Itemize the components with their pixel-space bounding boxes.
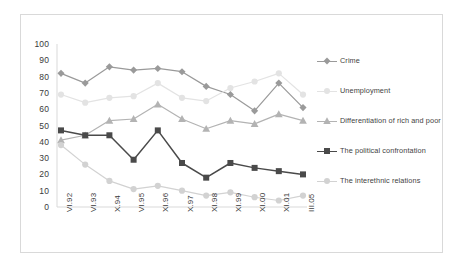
data-point-marker bbox=[227, 160, 233, 166]
legend-marker-icon bbox=[317, 56, 337, 66]
data-point-marker bbox=[203, 98, 209, 104]
chart-frame: 1009080706050403020100 VI.92VI.93X.94VI.… bbox=[20, 14, 443, 253]
data-point-marker bbox=[276, 70, 282, 76]
data-point-marker bbox=[324, 148, 330, 154]
data-point-marker bbox=[131, 157, 137, 163]
data-point-marker bbox=[276, 197, 282, 203]
data-point-marker bbox=[227, 91, 234, 98]
data-point-marker bbox=[178, 115, 186, 122]
legend-item-label: Differentiation of rich and poor bbox=[340, 117, 441, 125]
data-point-marker bbox=[203, 175, 209, 181]
y-axis-tick-label: 90 bbox=[23, 56, 49, 65]
data-point-marker bbox=[203, 83, 210, 90]
data-point-marker bbox=[106, 132, 112, 138]
data-point-marker bbox=[82, 100, 88, 106]
data-point-marker bbox=[179, 160, 185, 166]
x-axis-tick-label: XI.96 bbox=[161, 193, 170, 212]
y-axis-tick-label: 60 bbox=[23, 105, 49, 114]
data-point-marker bbox=[106, 178, 112, 184]
legend-item-label: The interethnic relations bbox=[340, 177, 420, 185]
data-point-marker bbox=[82, 162, 88, 168]
data-point-marker bbox=[227, 117, 235, 124]
legend-item[interactable]: Differentiation of rich and poor bbox=[317, 115, 441, 127]
x-axis-tick-label: XI.00 bbox=[258, 193, 267, 212]
data-point-marker bbox=[203, 192, 209, 198]
series-unemployment bbox=[58, 70, 306, 106]
data-point-marker bbox=[82, 132, 88, 138]
data-point-marker bbox=[227, 189, 233, 195]
y-axis-tick-label: 20 bbox=[23, 170, 49, 179]
data-point-marker bbox=[276, 168, 282, 174]
x-axis-tick-label: VI.93 bbox=[89, 193, 98, 212]
data-point-marker bbox=[300, 192, 306, 198]
legend-item[interactable]: The political confrontation bbox=[317, 145, 426, 157]
x-axis-tick-label: VI.95 bbox=[137, 193, 146, 212]
y-axis-tick-label: 30 bbox=[23, 154, 49, 163]
legend-marker-icon bbox=[317, 176, 337, 186]
data-point-marker bbox=[300, 91, 306, 97]
data-point-marker bbox=[252, 78, 258, 84]
series-crime bbox=[57, 63, 306, 114]
data-point-marker bbox=[130, 67, 137, 74]
legend-swatch-diamond-icon bbox=[317, 56, 337, 66]
data-point-marker bbox=[324, 88, 330, 94]
data-point-marker bbox=[178, 68, 185, 75]
x-axis-tick-label: X.94 bbox=[113, 195, 122, 212]
legend-item[interactable]: Crime bbox=[317, 55, 360, 67]
data-point-marker bbox=[57, 70, 64, 77]
data-point-marker bbox=[131, 93, 137, 99]
chart-plot-wrapper: 1009080706050403020100 VI.92VI.93X.94VI.… bbox=[21, 15, 444, 254]
y-axis-tick-label: 50 bbox=[23, 122, 49, 131]
data-point-marker bbox=[155, 127, 161, 133]
data-point-marker bbox=[154, 65, 161, 72]
y-axis-tick-label: 100 bbox=[23, 40, 49, 49]
data-point-marker bbox=[131, 186, 137, 192]
legend-swatch-circle-icon bbox=[317, 176, 337, 186]
data-point-marker bbox=[324, 178, 330, 184]
x-axis-tick-label: XI.99 bbox=[234, 193, 243, 212]
data-point-marker bbox=[252, 194, 258, 200]
y-axis-tick-label: 80 bbox=[23, 73, 49, 82]
y-axis-tick-label: 70 bbox=[23, 89, 49, 98]
legend-swatch-square-icon bbox=[317, 146, 337, 156]
data-point-marker bbox=[58, 91, 64, 97]
data-point-marker bbox=[155, 183, 161, 189]
data-point-marker bbox=[179, 95, 185, 101]
x-axis-tick-label: VI.92 bbox=[65, 193, 74, 212]
legend-item-label: The political confrontation bbox=[340, 147, 426, 155]
legend-swatch-triangle-icon bbox=[317, 116, 337, 126]
x-axis-tick-label: III.05 bbox=[307, 194, 316, 212]
legend-item-label: Crime bbox=[340, 57, 360, 65]
plot-area bbox=[57, 44, 307, 207]
series-canvas bbox=[57, 44, 307, 207]
legend-item[interactable]: Unemployment bbox=[317, 85, 390, 97]
data-point-marker bbox=[323, 117, 331, 124]
y-axis-tick-label: 10 bbox=[23, 187, 49, 196]
data-point-marker bbox=[106, 95, 112, 101]
data-point-marker bbox=[58, 142, 64, 148]
series-the-political-confrontation bbox=[58, 127, 306, 180]
data-point-marker bbox=[179, 188, 185, 194]
series-line bbox=[61, 130, 303, 177]
y-axis-tick-label: 40 bbox=[23, 138, 49, 147]
legend-item[interactable]: The interethnic relations bbox=[317, 175, 420, 187]
data-point-marker bbox=[82, 80, 89, 87]
data-point-marker bbox=[324, 58, 331, 65]
x-axis-tick-label: XI.01 bbox=[282, 193, 291, 212]
x-axis-tick-label: X.97 bbox=[186, 195, 195, 212]
x-axis-tick-label: XI.98 bbox=[210, 193, 219, 212]
legend-item-label: Unemployment bbox=[340, 87, 390, 95]
series-differentiation-of-rich-and-poor bbox=[57, 100, 307, 143]
legend-marker-icon bbox=[317, 116, 337, 126]
legend-marker-icon bbox=[317, 146, 337, 156]
data-point-marker bbox=[155, 80, 161, 86]
data-point-marker bbox=[275, 110, 283, 117]
data-point-marker bbox=[58, 127, 64, 133]
data-point-marker bbox=[154, 100, 162, 107]
legend-marker-icon bbox=[317, 86, 337, 96]
y-axis-tick-label: 0 bbox=[23, 203, 49, 212]
legend-swatch-circle-icon bbox=[317, 86, 337, 96]
data-point-marker bbox=[252, 165, 258, 171]
data-point-marker bbox=[106, 63, 113, 70]
data-point-marker bbox=[300, 171, 306, 177]
